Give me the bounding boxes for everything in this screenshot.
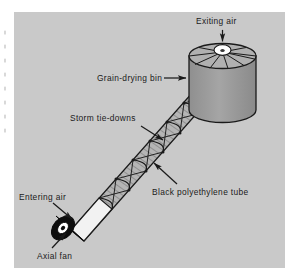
diagram-canvas bbox=[0, 0, 293, 278]
label-storm-tie-downs: Storm tie-downs bbox=[70, 114, 136, 122]
label-grain-drying-bin: Grain-drying bin bbox=[97, 74, 162, 82]
figure-root: Exiting air Grain-drying bin Storm tie-d… bbox=[0, 0, 293, 278]
label-black-polyethylene-tube: Black polyethylene tube bbox=[152, 188, 249, 196]
grain-drying-bin bbox=[189, 44, 256, 123]
bin-vent-core bbox=[220, 49, 224, 52]
label-exiting-air: Exiting air bbox=[196, 17, 237, 25]
label-entering-air: Entering air bbox=[19, 193, 66, 201]
label-axial-fan: Axial fan bbox=[37, 252, 72, 260]
